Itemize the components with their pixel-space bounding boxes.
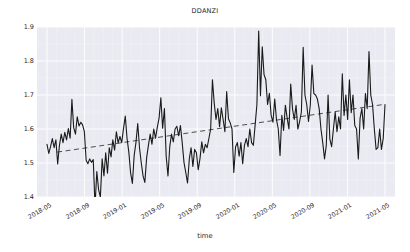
x-axis-label: time <box>0 232 410 240</box>
x-axis-ticks: 2018-052018-092019-012019-052019-092020-… <box>0 0 410 252</box>
x-tick-label: 2021-05 <box>347 201 390 230</box>
x-tick-label: 2019-01 <box>84 201 127 230</box>
x-tick-label: 2020-01 <box>197 201 240 230</box>
x-tick-label: 2018-09 <box>47 201 90 230</box>
x-tick-label: 2021-01 <box>310 201 353 230</box>
x-tick-label: 2019-09 <box>159 201 202 230</box>
chart-figure: DDANZI 1.41.51.61.71.81.9 2018-052018-09… <box>0 0 410 252</box>
x-tick-label: 2020-05 <box>234 201 277 230</box>
x-tick-label: 2018-05 <box>9 201 52 230</box>
x-tick-label: 2019-05 <box>122 201 165 230</box>
x-tick-label: 2020-09 <box>272 201 315 230</box>
